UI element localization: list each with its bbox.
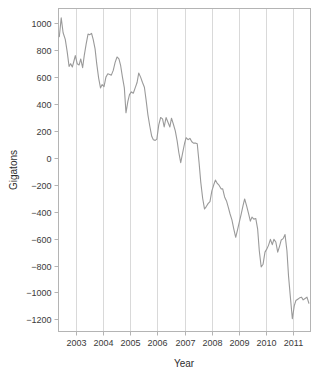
x-tick-label: 2009 xyxy=(229,338,249,348)
line-chart-svg: 10008006004002000−200−400−600−800−1000−1… xyxy=(0,0,329,375)
x-tick-label: 2010 xyxy=(256,338,276,348)
y-tick-label: 0 xyxy=(46,154,51,164)
x-tick-label: 2006 xyxy=(147,338,167,348)
y-tick-label: 200 xyxy=(36,127,51,137)
y-tick-label: 400 xyxy=(36,100,51,110)
x-tick-label: 2007 xyxy=(175,338,195,348)
x-tick-label: 2008 xyxy=(202,338,222,348)
x-tick-label: 2011 xyxy=(284,338,303,348)
y-tick-label: 1000 xyxy=(31,19,51,29)
y-tick-label: −800 xyxy=(31,262,51,272)
x-tick-label: 2003 xyxy=(66,338,86,348)
y-tick-label: −400 xyxy=(31,208,51,218)
x-tick-label: 2004 xyxy=(93,338,113,348)
y-tick-label: −1000 xyxy=(26,288,51,298)
x-tick-label: 2005 xyxy=(120,338,140,348)
y-tick-label: −600 xyxy=(31,235,51,245)
y-tick-label: −200 xyxy=(31,181,51,191)
y-tick-label: 800 xyxy=(36,46,51,56)
y-tick-label: 600 xyxy=(36,73,51,83)
x-axis-title: Year xyxy=(174,358,195,369)
y-axis-title: Gigatons xyxy=(8,150,19,190)
y-tick-label: −1200 xyxy=(26,315,51,325)
chart-figure: 10008006004002000−200−400−600−800−1000−1… xyxy=(0,0,329,375)
